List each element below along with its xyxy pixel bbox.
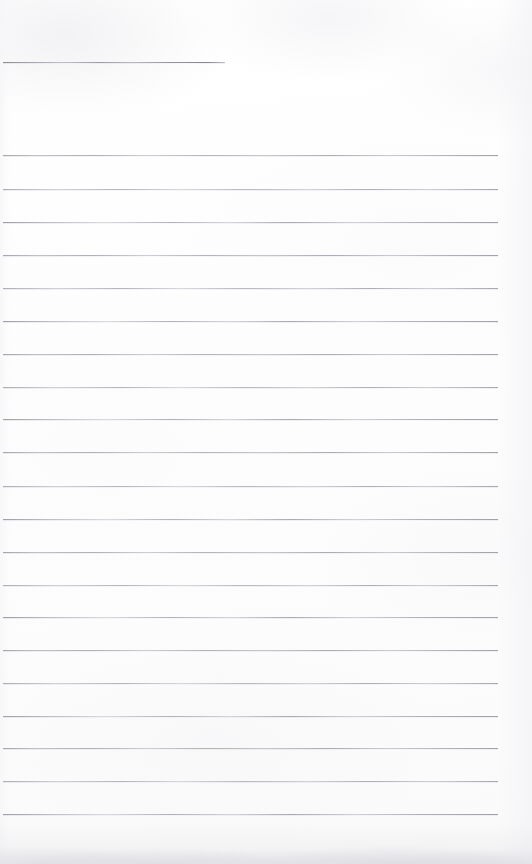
ruled-line-21: [3, 814, 498, 815]
ruled-line-8: [3, 387, 498, 388]
ruled-line-3: [3, 222, 498, 223]
ruled-line-7: [3, 354, 498, 355]
ruled-line-10: [3, 452, 498, 453]
ruled-line-17: [3, 683, 498, 684]
ruled-line-15: [3, 617, 498, 618]
ruled-line-2: [3, 189, 498, 190]
ruled-line-14: [3, 585, 498, 586]
ruled-line-16: [3, 650, 498, 651]
ruled-line-4: [3, 255, 498, 256]
ruled-line-1: [3, 155, 498, 156]
ruled-line-13: [3, 552, 498, 553]
ruled-line-18: [3, 716, 498, 717]
ruled-line-20: [3, 781, 498, 782]
ruled-line-6: [3, 321, 498, 322]
ruled-line-5: [3, 288, 498, 289]
ruled-line-12: [3, 519, 498, 520]
ruled-line-11: [3, 486, 498, 487]
ruled-line-9: [3, 419, 498, 420]
ruled-lines-layer: [0, 0, 532, 864]
title-rule: [3, 62, 225, 63]
ruled-line-19: [3, 748, 498, 749]
scanned-page: [0, 0, 532, 864]
